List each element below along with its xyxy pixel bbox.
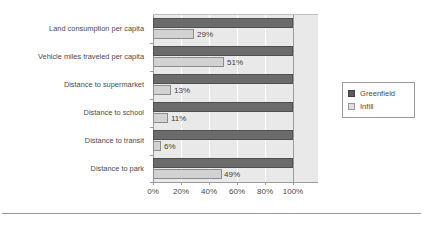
bar-group-distance-to-transit: 6% <box>153 127 318 155</box>
x-tick-mark-40 <box>209 182 210 185</box>
category-label-distance-to-supermarket: Distance to supermarket <box>0 80 144 89</box>
bar-group-distance-to-park: 49% <box>153 155 318 183</box>
bar-greenfield-vehicle-miles-traveled-per-capita <box>153 46 293 56</box>
bar-chart: Land consumption per capita Vehicle mile… <box>0 0 423 229</box>
bar-value-infill-distance-to-transit: 6% <box>164 142 176 151</box>
x-tick-mark-100 <box>293 182 294 185</box>
bar-value-infill-distance-to-supermarket: 13% <box>174 86 190 95</box>
bar-group-vehicle-miles-traveled-per-capita: 51% <box>153 43 318 71</box>
bar-group-distance-to-school: 11% <box>153 99 318 127</box>
bar-greenfield-distance-to-supermarket <box>153 74 293 84</box>
legend-item-infill: Infill <box>348 100 410 113</box>
category-label-distance-to-park: Distance to park <box>0 164 144 173</box>
bar-greenfield-distance-to-transit <box>153 130 293 140</box>
bar-infill-distance-to-school <box>153 113 168 123</box>
legend-item-greenfield: Greenfield <box>348 87 410 100</box>
category-label-distance-to-transit: Distance to transit <box>0 136 144 145</box>
bar-value-infill-distance-to-park: 49% <box>224 170 240 179</box>
bar-greenfield-distance-to-park <box>153 158 293 168</box>
bottom-divider <box>2 213 421 214</box>
legend-label-infill: Infill <box>360 102 374 111</box>
chart-legend: Greenfield Infill <box>342 82 415 118</box>
x-tick-label-100: 100% <box>283 187 303 196</box>
bar-infill-vehicle-miles-traveled-per-capita <box>153 57 224 67</box>
bar-value-infill-land-consumption-per-capita: 29% <box>197 30 213 39</box>
category-label-vehicle-miles-traveled-per-capita: Vehicle miles traveled per capita <box>0 52 144 61</box>
value-axis: 0% 20% 40% 60% 80% 100% <box>153 182 318 204</box>
bar-greenfield-land-consumption-per-capita <box>153 18 293 28</box>
bar-value-infill-vehicle-miles-traveled-per-capita: 51% <box>227 58 243 67</box>
x-tick-mark-80 <box>265 182 266 185</box>
bar-infill-distance-to-supermarket <box>153 85 171 95</box>
x-tick-label-60: 60% <box>229 187 245 196</box>
plot-area: 29% 51% 13% 11% 6% 4 <box>153 14 318 183</box>
x-tick-mark-60 <box>237 182 238 185</box>
x-tick-label-0: 0% <box>147 187 159 196</box>
bar-infill-land-consumption-per-capita <box>153 29 194 39</box>
x-tick-label-40: 40% <box>201 187 217 196</box>
x-tick-label-20: 20% <box>173 187 189 196</box>
category-label-distance-to-school: Distance to school <box>0 108 144 117</box>
bar-infill-distance-to-transit <box>153 141 161 151</box>
bar-value-infill-distance-to-school: 11% <box>171 114 186 123</box>
x-tick-mark-0 <box>153 182 154 185</box>
category-axis-labels: Land consumption per capita Vehicle mile… <box>0 14 148 182</box>
x-tick-mark-20 <box>181 182 182 185</box>
greenfield-swatch-icon <box>348 90 355 97</box>
bar-group-land-consumption-per-capita: 29% <box>153 15 318 43</box>
x-tick-label-80: 80% <box>257 187 273 196</box>
bar-infill-distance-to-park <box>153 169 222 179</box>
category-label-land-consumption-per-capita: Land consumption per capita <box>0 24 144 33</box>
bar-greenfield-distance-to-school <box>153 102 293 112</box>
bar-group-distance-to-supermarket: 13% <box>153 71 318 99</box>
infill-swatch-icon <box>348 103 355 110</box>
legend-label-greenfield: Greenfield <box>360 89 395 98</box>
